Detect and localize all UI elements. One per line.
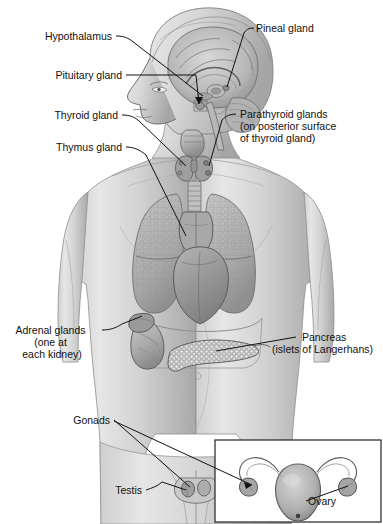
endocrine-system-diagram: Hypothalamus Pineal gland Pituitary glan… [0,0,383,524]
label-hypothalamus: Hypothalamus [45,30,112,42]
uterus [275,464,320,521]
label-testis: Testis [115,484,142,496]
larynx [181,130,204,157]
label-ovary: Ovary [308,495,337,507]
label-thymus-gland: Thymus gland [56,141,122,153]
pineal-gland [223,85,229,90]
label-pineal-gland: Pineal gland [256,22,314,34]
label-thyroid-gland: Thyroid gland [54,109,118,121]
ovary [339,478,357,496]
pituitary-gland [196,103,204,110]
label-pituitary-gland: Pituitary gland [55,69,122,81]
testis-group [174,478,217,503]
label-gonads: Gonads [73,414,110,426]
female-gonads-inset [215,440,381,522]
